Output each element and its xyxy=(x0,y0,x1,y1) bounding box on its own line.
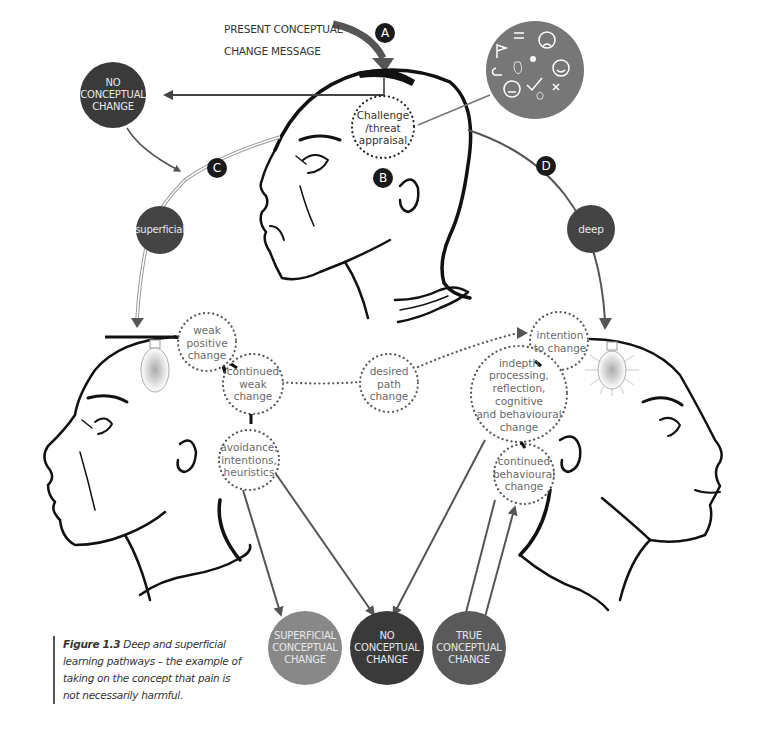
indepth-label: indepthprocessing,reflection, cognitivea… xyxy=(472,363,566,427)
figure-caption: Figure 1.3 Deep and superficial learning… xyxy=(53,636,243,704)
superficial-label: superficial xyxy=(136,222,184,238)
no-change-outcome-label: NOCONCEPTUALCHANGE xyxy=(350,628,424,668)
figure-number: Figure 1.3 xyxy=(63,638,120,650)
line-true-to-indepth xyxy=(462,500,495,628)
arrow-avoid-to-none xyxy=(276,474,372,612)
avoidance-label: avoidance,intentions,heuristics xyxy=(219,440,279,480)
bomb-icon xyxy=(530,56,536,62)
bright-lightbulb-icon xyxy=(585,342,639,396)
arrow-indepth-to-none xyxy=(395,440,485,612)
dim-lightbulb-icon xyxy=(141,340,169,392)
intention-label: intentionto change xyxy=(532,328,588,356)
badge-b: B xyxy=(373,168,393,188)
appraisal-label: Challenge/threatappraisal xyxy=(352,107,414,149)
superficial-outcome-label: SUPERFICIALCONCEPTUALCHANGE xyxy=(268,628,342,668)
desired-path-label: desiredpathchange xyxy=(362,364,416,404)
deep-label: deep xyxy=(567,221,615,237)
badge-c: C xyxy=(207,158,227,178)
continued-behavioural-label: continuedbehaviouralchange xyxy=(492,454,556,494)
arrow-true-to-continued xyxy=(482,510,514,628)
weak-positive-label: weakpositivechange xyxy=(180,323,234,363)
no-change-top-label: NOCONCEPTUALCHANGE xyxy=(80,75,146,115)
true-outcome-label: TRUECONCEPTUALCHANGE xyxy=(432,628,506,668)
badge-d: D xyxy=(536,156,556,176)
badge-a: A xyxy=(375,23,395,43)
continued-weak-label: continuedweakchange xyxy=(223,364,283,404)
emotion-cluster xyxy=(486,21,584,119)
present-message-label: PRESENT CONCEPTUAL CHANGE MESSAGE xyxy=(224,18,342,62)
